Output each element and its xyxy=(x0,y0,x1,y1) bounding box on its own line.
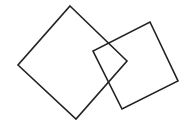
overlapping-squares-diagram xyxy=(0,0,195,129)
square-left xyxy=(18,6,127,119)
square-right xyxy=(93,22,178,109)
